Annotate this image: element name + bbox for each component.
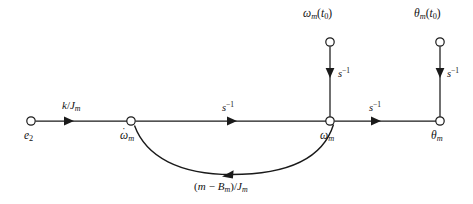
node-theta-m <box>436 117 444 125</box>
branch-gain-s-exponent: −1 <box>451 66 459 75</box>
branch-gain-s-exponent: −1 <box>373 100 381 109</box>
arrowhead-e2-to-omegadot <box>64 117 74 126</box>
node-label-omega-dot-m: ·ωm <box>120 130 134 144</box>
arrowhead-omega-to-theta <box>371 117 381 126</box>
node-omega-m <box>326 117 334 125</box>
node-omega-m-t0 <box>326 38 334 46</box>
branch-gain-feedback: (m−Bm)/Jm <box>194 181 248 194</box>
node-label-omega-m: ωm <box>320 130 334 144</box>
node-theta-m-t0 <box>436 38 444 46</box>
node-label-omega-dot-m-base: ·ω <box>120 130 128 142</box>
branch-gain-s-exponent: −1 <box>226 100 234 109</box>
branch-gain-omegadot-to-omega: s−1 <box>222 101 234 113</box>
node-e2 <box>27 117 35 125</box>
node-label-omega-m-t0: ωm(t0) <box>303 8 332 22</box>
branch-gain-denominator-subscript: m <box>75 104 81 113</box>
node-label-theta-m-t0-paren-close: ) <box>437 7 441 19</box>
node-label-e2-subscript: 2 <box>29 134 33 143</box>
node-omega-dot-m <box>127 117 135 125</box>
branch-gain-ic-theta: s−1 <box>447 67 459 79</box>
node-label-omega-m-t0-base: ω <box>303 7 311 19</box>
node-label-theta-m: θm <box>431 130 443 144</box>
overdot-icon: · <box>122 125 125 134</box>
arrowhead-ic-omega <box>326 68 335 78</box>
feedback-gain-second-term: B <box>218 180 225 192</box>
branch-gain-omega-to-theta: s−1 <box>369 101 381 113</box>
feedback-gain-first-term: m <box>198 180 206 192</box>
arrowhead-ic-theta <box>436 68 445 78</box>
arrowhead-omegadot-to-omega <box>227 117 237 126</box>
node-label-theta-m-subscript: m <box>437 134 443 143</box>
node-label-omega-m-t0-paren-close: ) <box>328 7 332 19</box>
node-label-e2: e2 <box>24 130 33 144</box>
branch-gain-ic-omega: s−1 <box>338 67 350 79</box>
node-label-omega-dot-m-subscript: m <box>128 134 134 143</box>
node-label-omega-m-base: ω <box>320 129 328 141</box>
edge-arc-feedback <box>135 125 334 175</box>
feedback-gain-denominator-subscript: m <box>242 185 248 194</box>
node-label-theta-m-t0: θm(t0) <box>414 8 441 22</box>
signal-flow-graph-figure: e2 ·ωm ωm θm ωm(t0) θm(t0) k/Jm s−1 s−1 … <box>0 0 473 204</box>
branch-gain-s-exponent: −1 <box>342 66 350 75</box>
feedback-gain-minus-sign: − <box>206 180 218 192</box>
branch-gain-e2-to-omegadot: k/Jm <box>62 100 81 113</box>
node-label-omega-m-subscript: m <box>328 134 334 143</box>
